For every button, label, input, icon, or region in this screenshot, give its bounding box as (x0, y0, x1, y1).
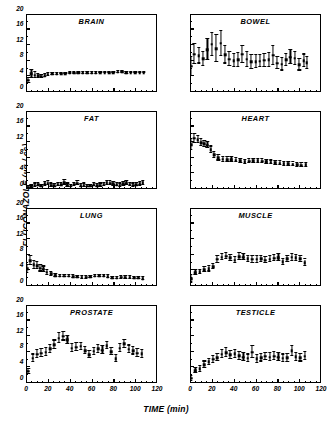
error-bar-cap (136, 348, 139, 349)
data-point (193, 137, 196, 140)
x-tick-minor (108, 90, 109, 92)
data-point (233, 259, 236, 262)
x-tick (92, 282, 93, 286)
x-tick (234, 379, 235, 383)
x-tick-minor (217, 381, 218, 383)
error-bar-cap (285, 353, 288, 354)
y-tick (26, 351, 30, 352)
x-tick-minor (195, 90, 196, 92)
error-bar-cap (263, 53, 266, 54)
error-bar-cap (212, 157, 215, 158)
data-point (255, 358, 258, 361)
data-point (92, 350, 95, 353)
data-point (281, 261, 284, 264)
error-bar-cap (224, 347, 227, 348)
y-tick (190, 28, 194, 29)
panel-fat: FAT048121620 (26, 111, 157, 189)
x-tick-minor (245, 90, 246, 92)
error-bar-cap (211, 362, 214, 363)
x-tick-minor (266, 187, 267, 189)
error-bar-cap (220, 349, 223, 350)
data-point (77, 72, 80, 75)
error-bar-cap (281, 258, 284, 259)
error-bar-cap (216, 255, 219, 256)
x-tick-minor (59, 90, 60, 92)
x-tick-minor (53, 381, 54, 383)
y-tick (26, 172, 30, 173)
error-bar-cap (219, 55, 222, 56)
error-bar-cap (264, 256, 267, 257)
data-point (36, 353, 39, 356)
x-tick-label: 80 (110, 385, 117, 392)
data-point (199, 368, 202, 371)
x-tick (212, 88, 213, 92)
x-tick-label: 20 (44, 385, 51, 392)
error-bar-cap (123, 339, 126, 340)
data-point (111, 277, 114, 280)
error-bar-cap (245, 66, 248, 67)
data-point (136, 352, 139, 355)
y-tick (190, 157, 194, 158)
data-point (120, 276, 123, 279)
x-tick-minor (201, 381, 202, 383)
data-point (241, 53, 244, 56)
data-point (51, 73, 54, 76)
error-bar-cap (233, 349, 236, 350)
error-bar-cap (45, 274, 48, 275)
error-bar-cap (53, 339, 56, 340)
x-tick-minor (206, 284, 207, 286)
x-tick-label: 80 (274, 385, 281, 392)
data-point (221, 158, 224, 161)
data-point (250, 61, 253, 64)
error-bar-cap (249, 54, 252, 55)
data-point (72, 275, 75, 278)
error-bar-cap (229, 358, 232, 359)
data-point (62, 335, 65, 338)
error-bar-cap (96, 352, 99, 353)
data-point (232, 60, 235, 63)
y-tick (26, 141, 30, 142)
y-tick (26, 157, 30, 158)
error-bar-cap (217, 154, 220, 155)
error-bar-cap (83, 353, 86, 354)
x-tick-minor (223, 90, 224, 92)
x-tick-minor (266, 381, 267, 383)
x-tick-label: 60 (88, 385, 95, 392)
data-point (267, 59, 270, 62)
y-tick-label: 8 (20, 342, 24, 349)
y-tick-label: 20 (16, 198, 23, 205)
error-bar-cap (254, 67, 257, 68)
error-bar-cap (258, 66, 261, 67)
error-bar-cap (206, 38, 209, 39)
x-tick (299, 282, 300, 286)
error-bar-cap (223, 45, 226, 46)
y-tick (190, 254, 194, 255)
panel-title: MUSCLE (190, 211, 321, 220)
error-bar-cap (61, 331, 64, 332)
data-point (291, 163, 294, 166)
y-tick-minor (26, 52, 28, 53)
data-point (68, 72, 71, 75)
error-bar-cap (224, 258, 227, 259)
x-tick-minor (86, 90, 87, 92)
error-bar-cap (190, 274, 193, 275)
data-point (269, 161, 272, 164)
x-tick-minor (294, 381, 295, 383)
x-tick-minor (59, 187, 60, 189)
y-tick-label: 16 (16, 117, 23, 124)
x-tick-minor (206, 187, 207, 189)
error-bar-cap (70, 343, 73, 344)
x-tick-minor (59, 381, 60, 383)
data-point (225, 255, 228, 258)
panel-prostate: PROSTATE048121620020406080100120 (26, 305, 157, 383)
error-bar-cap (285, 261, 288, 262)
data-point (73, 72, 76, 75)
x-tick-minor (119, 284, 120, 286)
error-bar-cap (299, 360, 302, 361)
panel-bowel: BOWEL (190, 14, 321, 92)
data-point (306, 61, 309, 64)
error-bar-cap (229, 260, 232, 261)
error-bar-cap (35, 349, 38, 350)
panel-brain: BRAIN048121620 (26, 14, 157, 92)
error-bar-cap (242, 352, 245, 353)
